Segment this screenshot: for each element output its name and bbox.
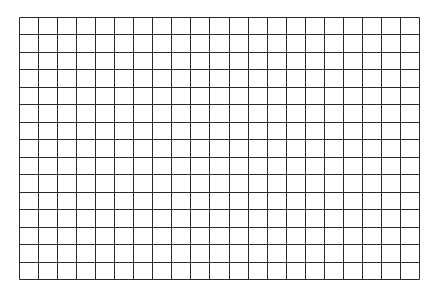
blank-grid (0, 0, 436, 294)
grid-lines (20, 18, 420, 280)
